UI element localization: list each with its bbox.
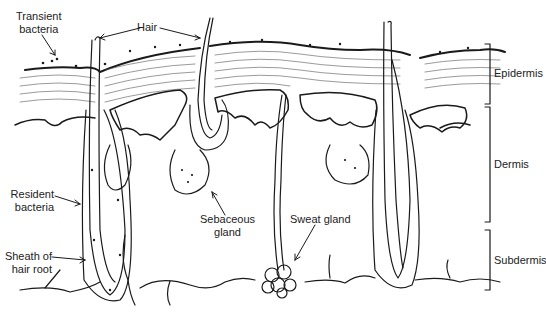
label-line: Sebaceous (200, 213, 255, 226)
label-line: Transient (16, 10, 61, 23)
label-dermis: Dermis (494, 158, 529, 171)
label-sebaceous-gland: Sebaceous gland (200, 213, 255, 239)
label-line: bacteria (16, 23, 61, 36)
label-line: Resident (8, 188, 54, 201)
sebaceous-glands (104, 145, 369, 194)
label-transient-bacteria: Transient bacteria (16, 10, 61, 36)
skin-diagram: Transient bacteria Hair Resident bacteri… (0, 0, 546, 312)
hair-right (373, 21, 419, 287)
label-resident-bacteria: Resident bacteria (8, 188, 54, 214)
label-epidermis: Epidermis (494, 67, 543, 80)
label-line: bacteria (8, 201, 54, 214)
skin-illustration (0, 0, 546, 312)
label-subdermis: Subdermis (494, 254, 546, 267)
label-line: hair root (2, 263, 52, 276)
layer-brackets (485, 44, 490, 290)
label-line: Sheath of (2, 250, 52, 263)
label-sweat-gland: Sweat gland (290, 213, 351, 226)
label-line: gland (200, 226, 255, 239)
hair-middle (190, 18, 229, 150)
label-hair: Hair (137, 21, 157, 34)
bacteria-dots (42, 39, 469, 291)
label-sheath-of-hair-root: Sheath of hair root (2, 250, 52, 276)
